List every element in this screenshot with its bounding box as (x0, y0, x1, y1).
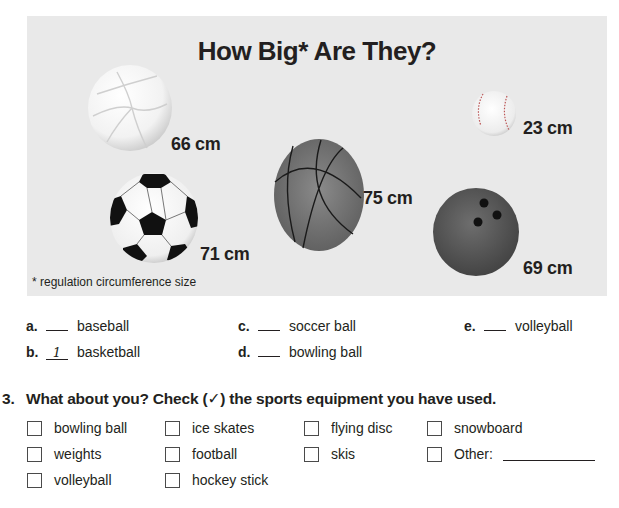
checkbox-item-other[interactable]: Other: (427, 446, 595, 462)
bowling-ball-image (432, 187, 520, 277)
checkbox-item-volleyball[interactable]: volleyball (27, 472, 112, 488)
checkbox-label: Other: (454, 446, 493, 462)
volleyball-image (87, 64, 173, 152)
checkbox-label: volleyball (54, 472, 112, 488)
other-input-line[interactable] (503, 448, 595, 461)
checkbox-item-weights[interactable]: weights (27, 446, 101, 462)
checkbox-item-ice-skates[interactable]: ice skates (165, 420, 254, 436)
checkbox-label: flying disc (331, 420, 392, 436)
checkbox-item-flying-disc[interactable]: flying disc (304, 420, 392, 436)
baseball-image (471, 90, 517, 137)
checkbox-item-football[interactable]: football (165, 446, 237, 462)
checkbox[interactable] (165, 421, 180, 436)
checkbox[interactable] (165, 473, 180, 488)
soccer-ball-size: 71 cm (200, 244, 250, 265)
question-number: 3. (2, 390, 26, 408)
checkbox-label: football (192, 446, 237, 462)
checkbox[interactable] (27, 421, 42, 436)
basketball-image (273, 138, 365, 252)
checkbox[interactable] (27, 473, 42, 488)
match-item-c: c. soccer ball (238, 318, 356, 334)
item-label: soccer ball (289, 318, 356, 334)
checkbox[interactable] (304, 447, 319, 462)
item-label: volleyball (515, 318, 573, 334)
checkbox-label: weights (54, 446, 101, 462)
checkbox-label: snowboard (454, 420, 523, 436)
baseball-size: 23 cm (523, 118, 573, 139)
checkbox[interactable] (27, 447, 42, 462)
item-letter: c. (238, 318, 258, 334)
checkbox-item-bowling-ball[interactable]: bowling ball (27, 420, 127, 436)
answer-blank[interactable]: 1 (46, 347, 68, 360)
item-label: bowling ball (289, 344, 362, 360)
bowling-ball-size: 69 cm (523, 258, 573, 279)
checkbox[interactable] (165, 447, 180, 462)
checkbox-item-skis[interactable]: skis (304, 446, 355, 462)
match-item-a: a. baseball (26, 318, 129, 334)
match-item-b: b. 1 basketball (26, 344, 140, 360)
checkbox-item-hockey-stick[interactable]: hockey stick (165, 472, 268, 488)
answer-blank[interactable] (258, 344, 280, 357)
soccer-ball-image (109, 172, 199, 264)
answer-blank[interactable] (46, 318, 68, 331)
ball-size-infographic: How Big* Are They? 66 cm (27, 16, 607, 296)
answer-blank[interactable] (484, 318, 506, 331)
item-letter: b. (26, 344, 46, 360)
checkbox-item-snowboard[interactable]: snowboard (427, 420, 523, 436)
match-item-d: d. bowling ball (238, 344, 362, 360)
match-item-e: e. volleyball (464, 318, 573, 334)
checkbox[interactable] (304, 421, 319, 436)
checkbox-label: bowling ball (54, 420, 127, 436)
item-label: baseball (77, 318, 129, 334)
question-3-heading: 3.What about you? Check (✓) the sports e… (2, 390, 496, 408)
footnote: * regulation circumference size (32, 275, 196, 289)
volleyball-size: 66 cm (171, 134, 221, 155)
question-text: What about you? Check (✓) the sports equ… (26, 390, 496, 407)
item-letter: d. (238, 344, 258, 360)
checkbox[interactable] (427, 421, 442, 436)
checkbox[interactable] (427, 447, 442, 462)
item-letter: e. (464, 318, 484, 334)
checkbox-label: hockey stick (192, 472, 268, 488)
checkbox-label: skis (331, 446, 355, 462)
item-label: basketball (77, 344, 140, 360)
basketball-size: 75 cm (363, 188, 413, 209)
item-letter: a. (26, 318, 46, 334)
answer-blank[interactable] (258, 318, 280, 331)
checkbox-label: ice skates (192, 420, 254, 436)
infographic-title: How Big* Are They? (27, 36, 607, 67)
